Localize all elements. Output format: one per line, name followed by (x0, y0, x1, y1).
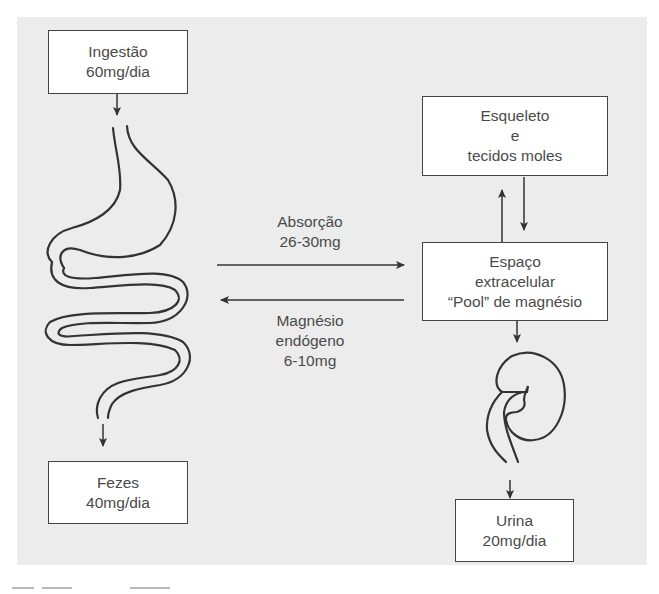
gi-tract-icon (46, 126, 190, 418)
endogenous-title: Magnésio (250, 311, 370, 331)
endogenous-subtitle: endógeno (250, 331, 370, 351)
skeleton-label: Esqueleto (481, 106, 550, 126)
urine-label: Urina (496, 511, 533, 531)
skeleton-tissue: tecidos moles (468, 146, 563, 166)
skeleton-conj: e (511, 126, 520, 146)
feces-value: 40mg/dia (86, 493, 150, 513)
urine-value: 20mg/dia (483, 531, 547, 551)
skeleton-box: Esqueleto e tecidos moles (422, 96, 608, 176)
intake-label: Ingestão (88, 42, 147, 62)
endogenous-value: 6-10mg (250, 351, 370, 371)
caption-fragment (42, 587, 72, 589)
caption-area (0, 575, 659, 594)
feces-label: Fezes (97, 473, 139, 493)
extracellular-box: Espaço extracelular “Pool” de magnésio (422, 242, 608, 321)
extracellular-line3: “Pool” de magnésio (448, 292, 582, 312)
endogenous-label: Magnésio endógeno 6-10mg (250, 311, 370, 371)
feces-box: Fezes 40mg/dia (48, 461, 188, 524)
intake-box: Ingestão 60mg/dia (48, 30, 188, 94)
absorption-label: Absorção 26-30mg (250, 212, 370, 252)
extracellular-line1: Espaço (489, 252, 541, 272)
caption-fragment (12, 587, 34, 589)
caption-fragment (130, 587, 170, 589)
intake-value: 60mg/dia (86, 62, 150, 82)
kidney-icon (487, 353, 565, 462)
absorption-title: Absorção (250, 212, 370, 232)
absorption-value: 26-30mg (250, 232, 370, 252)
urine-box: Urina 20mg/dia (455, 499, 574, 562)
extracellular-line2: extracelular (475, 272, 555, 292)
